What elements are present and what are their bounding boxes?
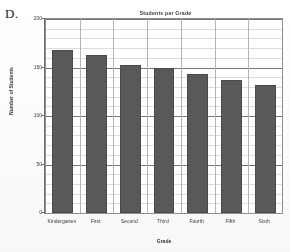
- x-tick-label-kindergarten: Kindergarten: [45, 218, 79, 224]
- x-tick-label-second: Second: [112, 218, 146, 224]
- figure-label: D.: [5, 6, 18, 22]
- x-tick-label-sixth: Sixth: [247, 218, 281, 224]
- y-axis-line: [44, 18, 45, 214]
- x-tick-label-first: First: [79, 218, 113, 224]
- bar-fourth: [187, 74, 208, 213]
- plot-area: [46, 19, 282, 213]
- y-tick-label: 0: [18, 209, 42, 215]
- bar-third: [154, 68, 175, 213]
- y-tick-mark: [41, 115, 45, 116]
- x-axis-title: Grade: [45, 238, 283, 244]
- y-tick-mark: [41, 212, 45, 213]
- y-tick-mark: [41, 67, 45, 68]
- y-tick-mark: [41, 18, 45, 19]
- bars-layer: [46, 19, 282, 213]
- bar-sixth: [255, 85, 276, 213]
- chart-title: Students per Grade: [45, 10, 286, 16]
- y-tick-label: 200: [18, 15, 42, 21]
- y-tick-mark: [41, 164, 45, 165]
- x-tick-label-fourth: Fourth: [180, 218, 214, 224]
- y-tick-label: 100: [18, 112, 42, 118]
- bar-second: [120, 65, 141, 213]
- y-tick-label: 50: [18, 161, 42, 167]
- bar-fifth: [221, 80, 242, 213]
- bar-kindergarten: [52, 50, 73, 213]
- y-tick-label: 150: [18, 64, 42, 70]
- x-tick-label-fifth: Fifth: [214, 218, 248, 224]
- x-tick-label-third: Third: [146, 218, 180, 224]
- bar-first: [86, 55, 107, 213]
- y-axis-title: Number of Students: [8, 51, 14, 131]
- plot-frame: [45, 18, 283, 214]
